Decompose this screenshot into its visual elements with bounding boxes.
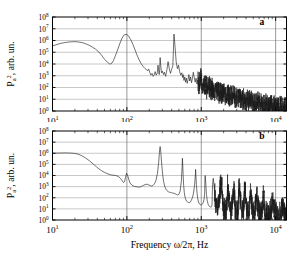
y-tick-label: 108	[39, 12, 49, 22]
x-tick-label: 102	[121, 223, 133, 235]
y-tick-label: 106	[39, 148, 49, 158]
x-tick-label: 104	[269, 223, 282, 235]
y-tick-label: 100	[39, 106, 49, 116]
panel-label-b: b	[259, 131, 264, 141]
y-tick-label: 104	[39, 59, 49, 69]
figure-root: 108107106105104103102101100101102103104F…	[0, 0, 302, 260]
y-axis-title: Pa2, arb. un.	[5, 41, 18, 86]
y-tick-label: 100	[39, 215, 49, 225]
y-tick-label: 104	[39, 170, 49, 180]
y-tick-label: 106	[39, 35, 49, 45]
x-axis-title: Frequency ω/2π, Hz	[131, 239, 209, 250]
x-tick-label: 101	[46, 223, 58, 235]
y-tick-label: 107	[39, 23, 49, 33]
y-tick-label: 103	[39, 181, 49, 191]
y-tick-label: 103	[39, 70, 49, 80]
y-tick-label: 102	[39, 82, 49, 92]
panel-label-a: a	[260, 17, 265, 27]
x-axis-tick-labels: 101102103104	[46, 223, 282, 235]
y-tick-label: 108	[39, 126, 49, 136]
y-tick-label: 105	[39, 159, 49, 169]
y-tick-label: 102	[39, 192, 49, 202]
spectrum-plot-a: 108107106105104103102101100101102103104F…	[0, 0, 302, 122]
x-tick-label: 103	[195, 223, 207, 235]
spectrum-panel-b: 108107106105104103102101100101102103104F…	[0, 120, 302, 260]
y-axis-title: Pa2, arb. un.	[5, 153, 18, 198]
y-tick-label: 101	[39, 203, 49, 213]
y-tick-label: 105	[39, 47, 49, 57]
y-tick-label: 107	[39, 137, 49, 147]
y-tick-label: 101	[39, 94, 49, 104]
spectrum-plot-b: 108107106105104103102101100101102103104F…	[0, 120, 302, 260]
spectrum-panel-a: 108107106105104103102101100101102103104F…	[0, 0, 302, 122]
